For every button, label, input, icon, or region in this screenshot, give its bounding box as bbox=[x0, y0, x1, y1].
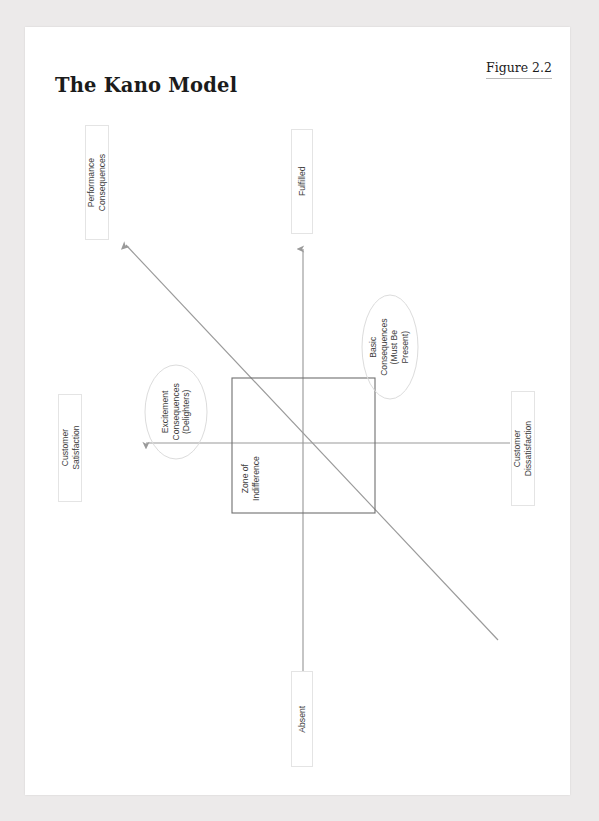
label-line: Satisfaction bbox=[70, 426, 81, 470]
label-line: Fulfilled bbox=[297, 167, 308, 197]
label-line: Indifference bbox=[250, 457, 261, 502]
label-line: Absent bbox=[297, 706, 308, 733]
basic-consequences-ellipse bbox=[362, 295, 418, 399]
label-fulfilled: Fulfilled bbox=[291, 129, 313, 234]
label-line: Customer bbox=[512, 421, 523, 476]
label-line: Zone of bbox=[239, 457, 250, 502]
figure-sheet: The Kano Model Figure 2.2 bbox=[25, 27, 570, 795]
kano-diagram: Performance Consequences Fulfilled Custo… bbox=[25, 27, 570, 795]
label-line: Dissatisfaction bbox=[523, 421, 534, 476]
label-line: Customer bbox=[59, 426, 70, 470]
page-canvas: The Kano Model Figure 2.2 bbox=[0, 0, 599, 821]
excitement-consequences-ellipse bbox=[145, 365, 207, 459]
label-line: Consequences bbox=[97, 154, 108, 211]
label-line: Performance bbox=[86, 154, 97, 211]
label-absent: Absent bbox=[291, 671, 313, 767]
label-customer-satisfaction: Customer Satisfaction bbox=[58, 394, 82, 502]
label-customer-dissatisfaction: Customer Dissatisfaction bbox=[511, 391, 535, 506]
label-zone-of-indifference: Zone of Indifference bbox=[236, 447, 264, 511]
label-performance-consequences: Performance Consequences bbox=[85, 125, 109, 240]
